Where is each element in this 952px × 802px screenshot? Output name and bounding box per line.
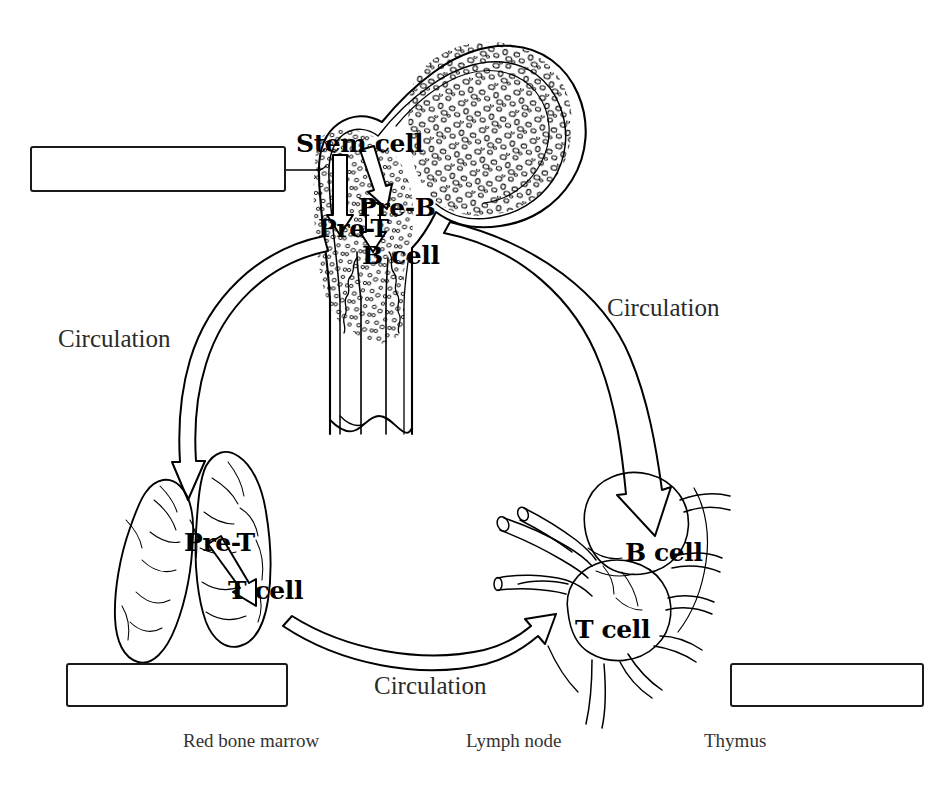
cell-label-stem-cell: Stem cell xyxy=(296,131,423,156)
cell-label-pre-t-thymus: Pre-T xyxy=(184,530,255,555)
caption-thymus: Thymus xyxy=(704,731,766,750)
cell-label-pre-t-marrow: Pre-T xyxy=(318,216,389,241)
diagram-canvas: Stem cell Pre-B Pre-T B cell Pre-T T cel… xyxy=(0,0,952,802)
caption-red-bone-marrow: Red bone marrow xyxy=(183,731,319,750)
answer-box-thymus[interactable] xyxy=(66,663,288,707)
circulation-label-bottom: Circulation xyxy=(374,673,486,698)
circulation-label-right: Circulation xyxy=(607,295,719,320)
answer-box-lymph-node[interactable] xyxy=(730,663,924,707)
cell-label-t-cell-lymph-node: T cell xyxy=(575,617,650,642)
cell-label-b-cell-lymph-node: B cell xyxy=(625,540,703,565)
cell-label-b-cell-marrow: B cell xyxy=(362,243,440,268)
circulation-label-left: Circulation xyxy=(58,326,170,351)
caption-lymph-node: Lymph node xyxy=(466,731,562,750)
answer-box-red-bone-marrow[interactable] xyxy=(30,146,286,192)
cell-label-t-cell-thymus: T cell xyxy=(228,578,303,603)
